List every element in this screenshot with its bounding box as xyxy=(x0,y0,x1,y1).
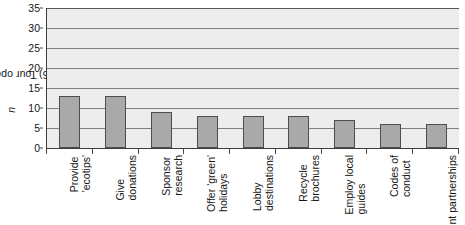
bar xyxy=(105,96,126,148)
bar xyxy=(151,112,172,148)
bar-series xyxy=(47,8,459,148)
x-axis-category-label-text: Wastemanagement partnerships xyxy=(435,155,458,225)
x-axis-tick-mark xyxy=(183,149,184,154)
x-axis-category-label: Givedonations xyxy=(92,155,138,225)
y-axis-tick-mark xyxy=(40,8,43,9)
x-axis-category-label-text: Recyclebrochures xyxy=(298,155,321,202)
y-axis-tick-labels: 05101520253035 xyxy=(22,8,43,148)
bar xyxy=(197,116,218,148)
x-axis-category-labels: Provide'ecotips'GivedonationsSponsorrese… xyxy=(46,155,458,225)
y-axis-title-italic-n: n xyxy=(5,107,17,113)
x-axis-category-label: Provide'ecotips' xyxy=(46,155,92,225)
x-axis-tick-mark xyxy=(366,149,367,154)
y-axis-tick-label: 10 xyxy=(28,103,40,114)
x-axis-tick-mark xyxy=(46,149,47,154)
y-axis-tick-mark xyxy=(40,68,43,69)
y-axis-tick-mark xyxy=(40,48,43,49)
x-axis-category-label: Recyclebrochures xyxy=(275,155,321,225)
x-axis-category-label-line: Employ local xyxy=(343,155,355,215)
bar-chart-figure: Tour operators (n=36) 05101520253035 Pro… xyxy=(0,0,465,225)
x-axis-tick-mark xyxy=(275,149,276,154)
plot-area xyxy=(46,8,459,149)
x-axis-category-label: Employ localguides xyxy=(321,155,367,225)
x-axis-category-label-text: Provide'ecotips' xyxy=(69,155,92,192)
y-axis-title: Tour operators (n=36) xyxy=(0,0,22,150)
x-axis-category-label: Wastemanagement partnerships xyxy=(412,155,458,225)
bar xyxy=(380,124,401,148)
x-axis-category-label-line: 'ecotips' xyxy=(81,155,93,192)
x-axis-category-label-line: Lobby xyxy=(251,182,263,211)
x-axis-category-label-line: Give xyxy=(114,179,126,201)
x-axis-category-label-line: brochures xyxy=(310,155,322,202)
x-axis-category-label-text: Employ localguides xyxy=(344,155,367,215)
x-axis-category-label-text: Codes ofconduct xyxy=(389,155,412,197)
bar xyxy=(59,96,80,148)
x-axis-category-label: Offer 'green'holidays xyxy=(183,155,229,225)
x-axis-tick-mark xyxy=(92,149,93,154)
x-axis-category-label-line: destinations xyxy=(264,155,276,211)
x-axis-tick-mark xyxy=(458,149,459,154)
bar xyxy=(288,116,309,148)
x-axis-category-label-text: Givedonations xyxy=(115,155,138,201)
x-axis-category-label-line: Recycle xyxy=(297,164,309,201)
x-axis-category-label-text: Lobbydestinations xyxy=(252,155,275,211)
y-axis-tick-mark xyxy=(40,148,43,149)
y-axis-tick-mark xyxy=(40,108,43,109)
x-axis-category-label: Codes ofconduct xyxy=(366,155,412,225)
x-axis-category-label-line: Sponsor xyxy=(160,157,172,196)
x-axis-category-label-text: Sponsorresearch xyxy=(161,155,184,196)
x-axis-category-label-line: Offer 'green' xyxy=(205,155,217,212)
bar xyxy=(243,116,264,148)
x-axis-tick-mark xyxy=(321,149,322,154)
x-axis-category-label: Lobbydestinations xyxy=(229,155,275,225)
x-axis-category-label-line: donations xyxy=(127,155,139,201)
y-axis-tick-mark xyxy=(40,28,43,29)
x-axis-tick-mark xyxy=(138,149,139,154)
y-axis-tick-label: 30 xyxy=(28,23,40,34)
x-axis-category-label-line: Codes of xyxy=(388,155,400,197)
x-axis-category-label-line: management partnerships xyxy=(447,155,459,225)
bar xyxy=(426,124,447,148)
x-axis-category-label-line: holidays xyxy=(218,155,230,212)
y-axis-tick-label: 25 xyxy=(28,43,40,54)
x-axis-category-label-text: Offer 'green'holidays xyxy=(206,155,229,212)
y-axis-tick-label: 15 xyxy=(28,83,40,94)
y-axis-tick-label: 35 xyxy=(28,3,40,14)
x-axis-tick-marks xyxy=(46,149,458,154)
y-axis-tick-label: 20 xyxy=(28,63,40,74)
x-axis-category-label: Sponsorresearch xyxy=(138,155,184,225)
x-axis-category-label-line: Provide xyxy=(68,157,80,193)
y-axis-tick-mark xyxy=(40,88,43,89)
bar xyxy=(334,120,355,148)
x-axis-category-label-line: conduct xyxy=(401,155,413,197)
x-axis-tick-mark xyxy=(229,149,230,154)
y-axis-tick-mark xyxy=(40,128,43,129)
x-axis-tick-mark xyxy=(412,149,413,154)
